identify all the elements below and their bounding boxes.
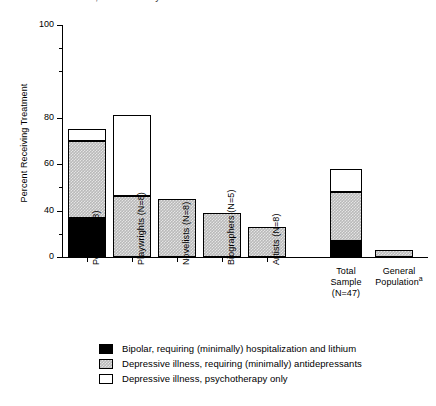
x-tick-poets (87, 258, 88, 262)
x-label-general-population-line2: Populationa (366, 277, 432, 288)
bar-total-sample-segment-psychotherapy (330, 169, 362, 192)
x-label-general-population: General Populationa (366, 266, 432, 288)
y-tick-label-0: 0 (32, 252, 54, 261)
x-tick-artists (267, 258, 268, 262)
y-tick-0 (57, 257, 62, 258)
bar-total-sample (330, 169, 362, 257)
legend-swatch-black-icon (99, 344, 113, 354)
legend-label-bipolar: Bipolar, requiring (minimally) hospitali… (122, 343, 356, 354)
y-tick-minor-90b (59, 71, 62, 72)
y-tick-minor-50 (59, 187, 62, 188)
legend-swatch-gray-icon (99, 359, 113, 369)
x-label-general-population-line2-text: Population (375, 277, 419, 287)
bar-total-sample-segment-bipolar (330, 241, 362, 257)
legend-label-psychotherapy: Depressive illness, psychotherapy only (122, 373, 288, 384)
x-axis-line (62, 257, 428, 258)
y-tick-40-anchor (57, 211, 62, 212)
y-tick-minor-95 (59, 48, 62, 49)
bar-playwrights-segment-psychotherapy (113, 115, 151, 196)
y-tick-label-100: 100 (32, 20, 54, 29)
figure: the second column, and N=47 by the last … (0, 0, 436, 406)
legend-swatch-white-icon (99, 374, 113, 384)
bar-general-population (375, 250, 413, 257)
y-tick-80-dup (57, 118, 62, 119)
legend: Bipolar, requiring (minimally) hospitali… (99, 342, 419, 387)
bar-poets-segment-antidepressants (68, 141, 106, 218)
y-axis-label: Percent Receiving Treatment (19, 63, 29, 223)
x-tick-biographers (222, 258, 223, 262)
legend-item-antidepressants: Depressive illness, requiring (minimally… (99, 357, 419, 372)
x-label-biographers: Biographers (N=5) (226, 190, 236, 265)
footnote-marker-a: a (419, 275, 423, 282)
y-axis-line (62, 25, 63, 258)
x-tick-novelists (177, 258, 178, 262)
x-label-playwrights: Playwrights (N=8) (136, 192, 146, 265)
bar-total-sample-segment-antidepressants (330, 192, 362, 241)
bar-poets-segment-psychotherapy (68, 129, 106, 141)
legend-item-psychotherapy: Depressive illness, psychotherapy only (99, 372, 419, 387)
bar-general-population-segment-antidepressants (375, 250, 413, 257)
x-label-artists: Artists (N=8) (271, 213, 281, 265)
legend-item-bipolar: Bipolar, requiring (minimally) hospitali… (99, 342, 419, 357)
y-tick-label-40: 40 (32, 206, 54, 215)
x-label-total-sample-line3: (N=47) (318, 288, 374, 299)
y-tick-minor-30 (59, 234, 62, 235)
x-label-novelists: Novelists (N=8) (181, 202, 191, 265)
x-label-poets: Poets (N=18) (91, 211, 101, 265)
legend-label-antidepressants: Depressive illness, requiring (minimally… (122, 358, 362, 369)
y-tick-label-60: 60 (32, 159, 54, 168)
y-tick-60 (57, 164, 62, 165)
y-tick-100 (57, 25, 62, 26)
y-tick-label-80: 80 (32, 113, 54, 122)
x-tick-playwrights (132, 258, 133, 262)
